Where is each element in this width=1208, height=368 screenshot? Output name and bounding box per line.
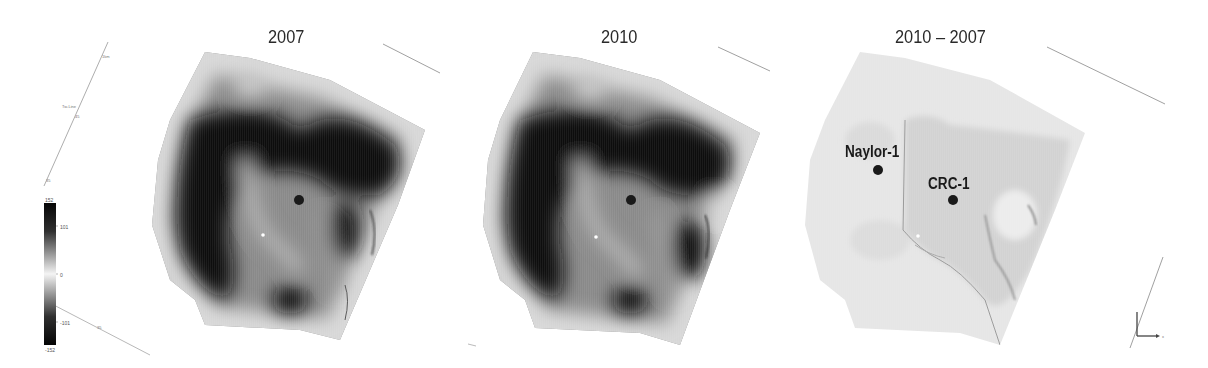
axis-fragment xyxy=(1047,47,1165,104)
left-axis xyxy=(44,42,150,355)
well-marker-crc1-2007 xyxy=(294,195,304,205)
axis-fragment xyxy=(383,44,440,73)
map-panel-2010 xyxy=(470,40,780,360)
axis-tick-lower: 35 xyxy=(97,325,101,330)
axis-tick-bottom: 35 xyxy=(46,178,50,183)
panel-title-difference: 2010 – 2007 xyxy=(895,26,986,48)
well-label-crc1: CRC-1 xyxy=(928,175,970,193)
axis-tick xyxy=(468,344,476,346)
bright-spot xyxy=(261,233,265,237)
map-panel-2007 xyxy=(140,40,440,350)
well-label-naylor1: Naylor-1 xyxy=(845,143,899,161)
axis-fragment xyxy=(1130,257,1163,348)
axis-tick-top: 1km xyxy=(102,54,110,59)
well-marker-crc1-2010 xyxy=(626,195,636,205)
orientation-axes-icon xyxy=(1137,312,1160,338)
colorbar xyxy=(44,203,58,345)
panel-title-2010: 2010 xyxy=(601,26,637,48)
bright-spot xyxy=(916,234,920,238)
panel-title-2007: 2007 xyxy=(268,26,304,48)
colorbar-label-max: 152 xyxy=(45,197,53,203)
figure-canvas xyxy=(0,0,1208,368)
axis-tick-mid: 45 xyxy=(75,114,79,119)
colorbar-label-upper: 101 xyxy=(60,224,68,230)
colorbar-label-mid: 0 xyxy=(60,272,63,278)
orientation-x-label: x xyxy=(1162,334,1164,339)
colorbar-label-lower: -101 xyxy=(60,320,70,326)
well-marker-crc1 xyxy=(948,195,958,205)
axis-label-tw-line: Tw-Line xyxy=(62,104,76,109)
bright-spot xyxy=(594,235,598,239)
well-marker-naylor1 xyxy=(873,165,883,175)
axis-fragment xyxy=(718,47,770,71)
colorbar-label-min: -152 xyxy=(45,347,55,353)
